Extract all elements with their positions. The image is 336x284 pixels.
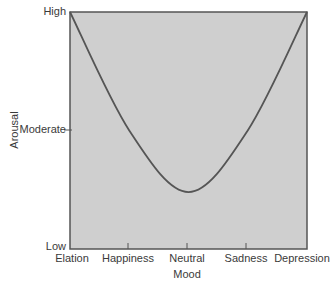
- x-axis-title: Mood: [173, 268, 201, 280]
- x-label-depression: Depression: [274, 252, 330, 264]
- y-label-high: High: [6, 5, 66, 17]
- y-label-low: Low: [6, 240, 66, 252]
- arousal-mood-chart: High Moderate Low Elation Happiness Neut…: [0, 0, 336, 284]
- x-label-neutral: Neutral: [169, 252, 204, 264]
- y-axis-title: Arousal: [8, 111, 20, 148]
- x-label-elation: Elation: [55, 252, 89, 264]
- x-label-sadness: Sadness: [225, 252, 268, 264]
- plot-area: [70, 12, 307, 249]
- x-label-happiness: Happiness: [102, 252, 154, 264]
